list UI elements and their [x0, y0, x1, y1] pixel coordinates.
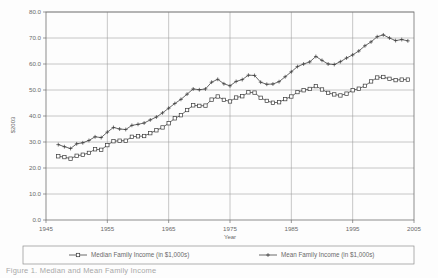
data-point — [247, 91, 250, 94]
data-point — [314, 84, 317, 87]
data-point — [259, 96, 262, 99]
data-point — [277, 101, 280, 104]
data-point — [290, 95, 293, 98]
data-point — [204, 104, 207, 107]
data-point — [296, 90, 299, 93]
data-point — [112, 140, 115, 143]
x-tick-label: 1965 — [162, 225, 176, 232]
y-tick-label: 40.0 — [29, 112, 42, 119]
legend-label: Median Family Income (in $1,000s) — [91, 251, 189, 259]
y-tick-label: 50.0 — [29, 86, 42, 93]
data-point — [302, 89, 305, 92]
legend-label: Mean Family Income (in $1,000s) — [281, 251, 374, 259]
data-point — [149, 131, 152, 134]
y-tick-label: 60.0 — [29, 60, 42, 67]
y-tick-label: 80.0 — [29, 8, 42, 15]
y-tick-label: 70.0 — [29, 34, 42, 41]
data-point — [161, 126, 164, 129]
data-point — [351, 89, 354, 92]
family-income-chart: 0.010.020.030.040.050.060.070.080.0 1945… — [0, 0, 438, 278]
data-point — [394, 78, 397, 81]
data-point — [167, 122, 170, 125]
x-tick-label: 1945 — [39, 225, 53, 232]
y-tick-label: 30.0 — [29, 138, 42, 145]
figure-container: 0.010.020.030.040.050.060.070.080.0 1945… — [0, 0, 438, 278]
data-point — [87, 151, 90, 154]
data-point — [363, 84, 366, 87]
data-point — [284, 97, 287, 100]
data-point — [234, 96, 237, 99]
data-point — [198, 104, 201, 107]
data-point — [308, 87, 311, 90]
data-point — [320, 88, 323, 91]
data-point — [69, 157, 72, 160]
data-point — [136, 135, 139, 138]
data-point — [333, 93, 336, 96]
x-tick-label: 2005 — [407, 225, 421, 232]
y-tick-label: 20.0 — [29, 164, 42, 171]
data-point — [118, 139, 121, 142]
x-tick-label: 1955 — [100, 225, 114, 232]
data-point — [222, 98, 225, 101]
y-tick-label: 10.0 — [29, 190, 42, 197]
data-point — [185, 108, 188, 111]
data-point — [124, 139, 127, 142]
data-point — [130, 135, 133, 138]
data-point — [265, 99, 268, 102]
data-point — [339, 94, 342, 97]
data-point — [142, 134, 145, 137]
data-point — [63, 155, 66, 158]
data-point — [400, 78, 403, 81]
data-point — [210, 98, 213, 101]
data-point — [192, 104, 195, 107]
x-tick-label: 1985 — [284, 225, 298, 232]
data-point — [173, 117, 176, 120]
data-point — [376, 76, 379, 79]
y-axis-title: $2003 — [10, 116, 16, 133]
x-tick-label: 1995 — [346, 225, 360, 232]
data-point — [382, 75, 385, 78]
data-point — [179, 114, 182, 117]
data-point — [155, 129, 158, 132]
data-point — [253, 91, 256, 94]
data-point — [93, 148, 96, 151]
x-axis-title: Year — [224, 234, 236, 240]
x-tick-label: 1975 — [223, 225, 237, 232]
data-point — [271, 101, 274, 104]
figure-caption: Figure 1. Median and Mean Family Income — [6, 266, 306, 278]
data-point — [81, 153, 84, 156]
data-point — [216, 95, 219, 98]
data-point — [106, 143, 109, 146]
data-point — [406, 78, 409, 81]
data-point — [345, 92, 348, 95]
data-point — [326, 91, 329, 94]
data-point — [369, 80, 372, 83]
square-marker — [76, 253, 79, 256]
data-point — [388, 77, 391, 80]
data-point — [357, 87, 360, 90]
data-point — [241, 95, 244, 98]
y-tick-label: 0.0 — [32, 216, 41, 223]
data-point — [228, 100, 231, 103]
data-point — [100, 148, 103, 151]
data-point — [57, 155, 60, 158]
data-point — [75, 154, 78, 157]
